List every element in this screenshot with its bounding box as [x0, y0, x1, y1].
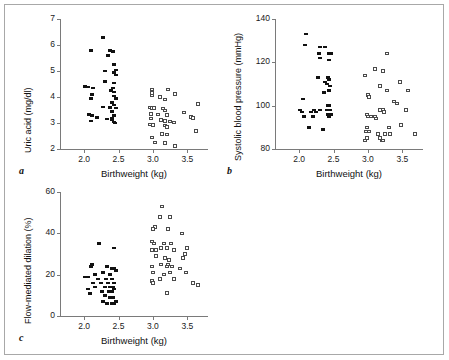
panel-c-data-point-series1	[150, 265, 154, 269]
panel-c-data-point-series0	[114, 300, 118, 303]
panel-b-data-point-series1	[363, 74, 367, 78]
panel-b-data-point-series0	[301, 98, 305, 101]
panel-b-data-point-series1	[395, 102, 399, 106]
panel-a-data-point-series1	[194, 129, 198, 133]
panel-c-data-point-series0	[97, 242, 101, 245]
panel-a-data-point-series1	[165, 113, 169, 117]
panel-a-data-point-series0	[112, 82, 116, 85]
panel-a-y-tick-label: 5	[30, 66, 55, 75]
panel-a-data-point-series1	[149, 117, 153, 121]
panel-c-data-point-series1	[170, 265, 174, 269]
panel-c-data-point-series1	[169, 242, 173, 246]
panel-b-data-point-series1	[363, 139, 367, 143]
panel-a-data-point-series1	[163, 119, 167, 123]
panel-c-x-tick-label: 3.0	[143, 322, 163, 331]
panel-a-data-point-series1	[151, 123, 155, 127]
panel-c-y-tick	[57, 316, 60, 317]
panel-c-data-point-series0	[99, 282, 103, 285]
panel-b-y-tick	[272, 106, 275, 107]
panel-a-data-point-series0	[90, 93, 94, 96]
panel-c-data-point-series1	[162, 273, 166, 277]
panel-a-data-point-series1	[163, 109, 167, 113]
panel-b-x-axis-label: Birthweight (kg)	[275, 168, 423, 179]
panel-a-data-point-series1	[150, 94, 154, 98]
panel-c-data-point-series1	[191, 281, 195, 285]
panel-b-x-tick	[402, 150, 403, 153]
panel-a-data-point-series1	[163, 98, 167, 102]
panel-c-x-tick	[119, 317, 120, 320]
panel-b-data-point-series1	[376, 132, 380, 136]
panel-c-x-tick-label: 3.5	[177, 322, 197, 331]
panel-b-x-tick-label: 3.5	[392, 155, 412, 164]
panel-a-data-point-series0	[108, 106, 112, 109]
panel-b-data-point-series1	[383, 132, 387, 136]
panel-c-x-tick	[84, 317, 85, 320]
panel-c-data-point-series1	[167, 258, 171, 262]
panel-b-data-point-series0	[329, 52, 333, 55]
panel-b-data-point-series0	[327, 78, 331, 81]
panel-c-data-point-series0	[114, 269, 118, 272]
panel-c-data-point-series1	[165, 291, 169, 295]
panel-c-data-point-series0	[88, 292, 92, 295]
panel-a-y-tick	[57, 149, 60, 150]
panel-b-y-tick-label: 100	[245, 101, 270, 110]
panel-a-data-point-series1	[173, 144, 177, 148]
panel-a-x-tick	[119, 150, 120, 153]
panel-a-data-point-series1	[149, 112, 153, 116]
panel-a-data-point-series0	[103, 70, 107, 73]
panel-b-data-point-series1	[406, 89, 410, 93]
panel-c-x-tick-label: 2.0	[74, 322, 94, 331]
panel-a-data-point-series0	[103, 80, 107, 83]
panel-b-data-point-series1	[382, 110, 386, 114]
panel-a-data-point-series0	[112, 104, 116, 107]
panel-c-data-point-series1	[159, 263, 163, 267]
panel-b-data-point-series1	[374, 117, 378, 121]
panel-c-data-point-series1	[172, 277, 176, 281]
panel-c-x-tick	[153, 317, 154, 320]
panel-a-data-point-series1	[172, 121, 176, 125]
panel-b-data-point-series0	[317, 52, 321, 55]
panel-a-x-tick-label: 3.0	[143, 155, 163, 164]
panel-a-data-point-series0	[95, 116, 99, 119]
panel-b-data-point-series0	[321, 128, 325, 131]
panel-a-x-tick-label: 3.5	[177, 155, 197, 164]
panel-a-data-point-series1	[152, 106, 156, 110]
panel-a-data-point-series1	[165, 133, 169, 137]
panel-a-data-point-series0	[110, 110, 114, 113]
panel-a: Uric acid (mg/dl) 2.02.53.03.5234567 Bir…	[15, 13, 220, 183]
panel-c-data-point-series0	[108, 273, 112, 276]
panel-c-y-tick	[57, 233, 60, 234]
panel-a-data-point-series1	[160, 132, 164, 136]
panel-c-data-point-series1	[151, 281, 155, 285]
panel-b-x-tick	[368, 150, 369, 153]
panel-a-data-point-series1	[191, 116, 195, 120]
panel-a-data-point-series0	[101, 106, 105, 109]
panel-c-data-point-series0	[103, 286, 107, 289]
panel-c-data-point-series0	[106, 282, 110, 285]
panel-c-x-tick	[187, 317, 188, 320]
panel-a-label: a	[19, 165, 24, 176]
panel-a-data-point-series0	[114, 107, 118, 110]
panel-a-plot-area: 2.02.53.03.5234567	[60, 19, 208, 149]
panel-a-y-tick-label: 2	[30, 144, 55, 153]
panel-a-data-point-series1	[158, 95, 162, 99]
panel-a-data-point-series1	[156, 113, 160, 117]
panel-c-data-point-series0	[96, 278, 100, 281]
panel-b-y-tick-label: 80	[245, 144, 270, 153]
panel-a-x-axis-label: Birthweight (kg)	[60, 168, 208, 179]
panel-b-data-point-series0	[300, 111, 304, 114]
panel-c-data-point-series0	[111, 296, 115, 299]
panel-b-data-point-series1	[378, 84, 382, 88]
panel-b-x-tick	[299, 150, 300, 153]
panel-c-data-point-series1	[162, 242, 166, 246]
panel-b-y-tick	[272, 149, 275, 150]
panel-b-data-point-series0	[328, 85, 332, 88]
panel-b-x-tick	[334, 150, 335, 153]
panel-a-y-tick-label: 7	[30, 14, 55, 23]
panel-c-data-point-series1	[181, 256, 185, 260]
panel-a-x-tick-label: 2.5	[109, 155, 129, 164]
panel-a-data-point-series0	[113, 122, 117, 125]
panel-b-x-axis	[275, 149, 423, 150]
panel-c-data-point-series1	[185, 246, 189, 250]
panel-b-data-point-series1	[413, 132, 417, 136]
